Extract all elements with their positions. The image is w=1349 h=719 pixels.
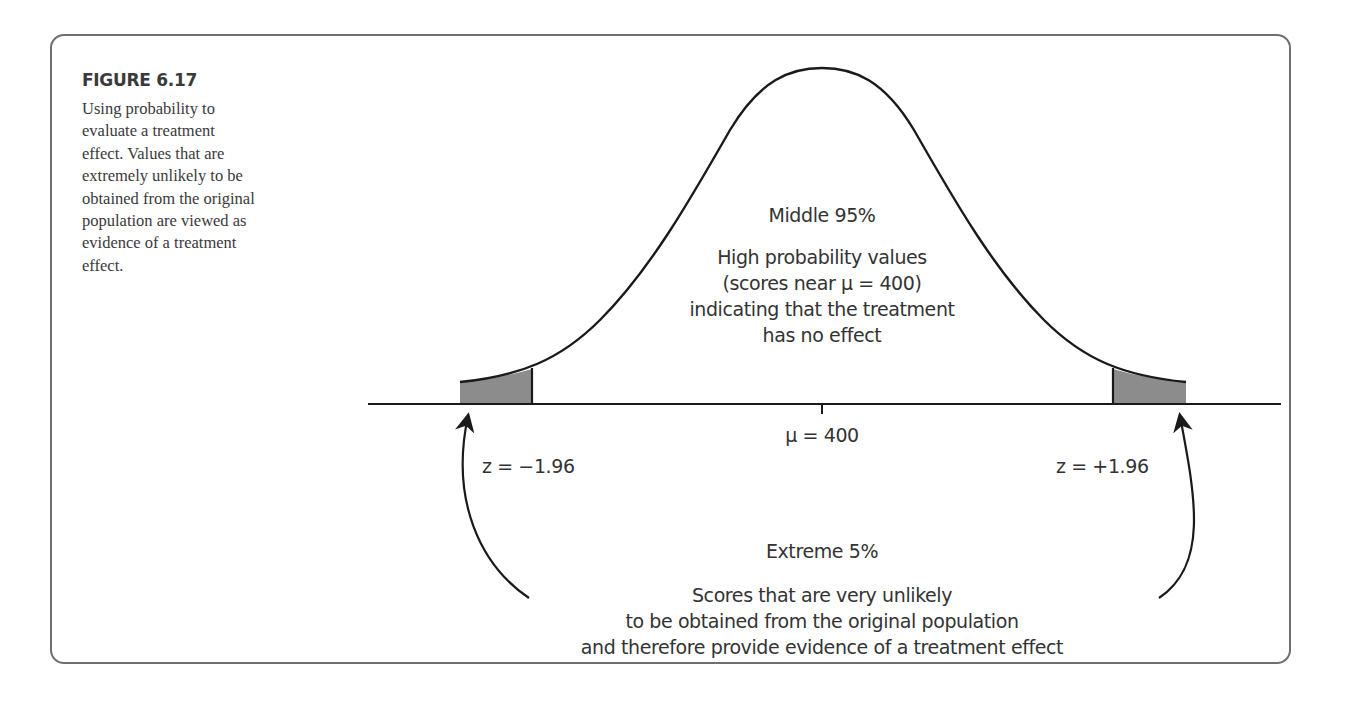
middle-desc-line: indicating that the treatment (689, 296, 954, 322)
extreme-desc-line: to be obtained from the original populat… (581, 608, 1063, 634)
middle-desc-line: has no effect (689, 322, 954, 348)
middle-desc-line: High probability values (689, 244, 954, 270)
extreme-desc-line: and therefore provide evidence of a trea… (581, 634, 1063, 660)
mean-label: μ = 400 (785, 424, 859, 446)
upper-tail-region (1113, 369, 1186, 404)
left-arrow (463, 416, 529, 598)
extreme-desc-line: Scores that are very unlikely (581, 582, 1063, 608)
lower-tail-region (460, 369, 532, 404)
middle-description: High probability values (scores near μ =… (689, 244, 954, 348)
middle-desc-line: (scores near μ = 400) (689, 270, 954, 296)
right-arrow (1159, 416, 1194, 598)
extreme-title: Extreme 5% (766, 540, 878, 562)
z-left-label: z = −1.96 (482, 455, 575, 477)
z-right-label: z = +1.96 (1056, 455, 1149, 477)
extreme-description: Scores that are very unlikely to be obta… (581, 582, 1063, 660)
middle-title: Middle 95% (768, 204, 875, 226)
